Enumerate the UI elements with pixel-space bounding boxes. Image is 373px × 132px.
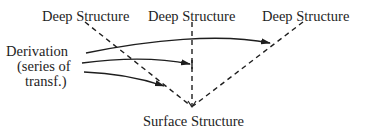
derivation-arrow-bottom (84, 72, 164, 86)
derivation-label-line-1: Derivation (6, 44, 68, 59)
derivation-label-line-2: (series of (17, 59, 71, 74)
dashed-path-left (85, 22, 191, 106)
deep-structure-label-1: Deep Structure (42, 9, 129, 24)
deep-structure-label-3: Deep Structure (262, 9, 349, 24)
deep-structure-label-2: Deep Structure (148, 9, 235, 24)
derivation-diagram: Deep Structure Deep Structure Deep Struc… (0, 0, 373, 132)
derivation-arrow-top (86, 38, 270, 53)
dashed-path-right (193, 22, 303, 106)
derivation-label-line-3: transf.) (25, 74, 66, 89)
surface-structure-label: Surface Structure (143, 114, 244, 129)
